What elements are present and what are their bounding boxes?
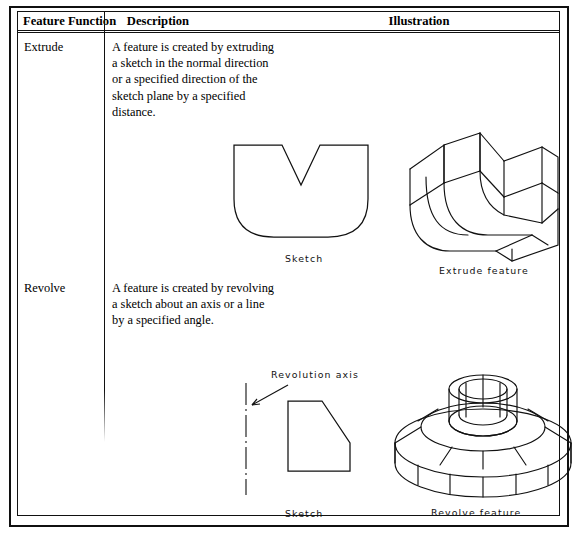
desc-line: a sketch in the normal direction	[112, 55, 308, 71]
table-header-row: Feature Function Description Illustratio…	[18, 12, 559, 31]
revolve-feature-drawing	[390, 381, 576, 509]
desc-line: A feature is created by extruding	[112, 39, 308, 55]
revolve-sketch-drawing	[194, 379, 384, 509]
extrude-feature-drawing	[392, 131, 572, 266]
revolve-feature-caption: Revolve feature	[431, 507, 521, 518]
extrude-sketch-caption: Sketch	[285, 253, 323, 264]
row-label-extrude: Extrude	[24, 40, 63, 55]
row-label-revolve: Revolve	[24, 281, 65, 296]
extrude-feature-caption: Extrude feature	[439, 265, 529, 276]
desc-line: sketch plane by a specified	[112, 88, 308, 104]
table-page: Feature Function Description Illustratio…	[0, 0, 580, 540]
column-header-illustration: Illustration	[244, 14, 580, 29]
desc-line: by a specified angle.	[112, 312, 308, 328]
row-description-extrude: A feature is created by extruding a sket…	[112, 39, 308, 120]
table-body: Extrude A feature is created by extrudin…	[18, 31, 559, 513]
feature-function-table: Feature Function Description Illustratio…	[17, 11, 560, 516]
extrude-sketch-drawing	[216, 139, 386, 249]
desc-line: distance.	[112, 104, 308, 120]
desc-line: or a specified direction of the	[112, 71, 308, 87]
row-description-revolve: A feature is created by revolving a sket…	[112, 280, 308, 329]
revolve-sketch-caption: Sketch	[285, 508, 323, 519]
desc-line: A feature is created by revolving	[112, 280, 308, 296]
desc-line: a sketch about an axis or a line	[112, 296, 308, 312]
